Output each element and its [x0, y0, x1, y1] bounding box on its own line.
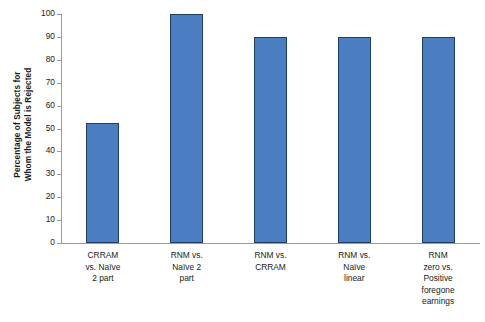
x-axis-tick-label-line: RNM vs.	[235, 250, 307, 262]
y-axis-tick-label: 100	[25, 9, 55, 17]
plot-area: 0102030405060708090100	[61, 14, 480, 243]
x-axis-tick-label: RNM vs.Naïvelinear	[318, 250, 390, 285]
x-axis-tick-label-line: 2 part	[67, 273, 139, 285]
y-axis-tick-label: 60	[25, 101, 55, 109]
y-axis-title-line-1: Percentage of Subjects for	[14, 67, 25, 181]
bar	[338, 37, 371, 243]
y-axis-tick-label: 30	[25, 169, 55, 177]
x-axis-tick-label-line: Naïve 2	[151, 262, 223, 274]
x-axis-tick-label-line: Positive	[402, 273, 474, 285]
y-axis-tick-label: 80	[25, 55, 55, 63]
x-axis-tick-label-line: RNM vs.	[318, 250, 390, 262]
y-axis-tick-label: 20	[25, 192, 55, 200]
y-axis-tick	[57, 83, 62, 84]
x-axis-tick-labels: CRRAMvs. Naïve2 partRNM vs.Naïve 2partRN…	[61, 250, 480, 320]
x-axis-tick-label-line: part	[151, 273, 223, 285]
x-axis-tick-label-line: RNM vs.	[151, 250, 223, 262]
x-axis-tick-label-line: CRRAM	[67, 250, 139, 262]
bar-chart-figure: Percentage of Subjects for Whom the Mode…	[0, 0, 485, 322]
y-axis-tick-label: 90	[25, 32, 55, 40]
y-axis-tick	[57, 37, 62, 38]
bar	[170, 14, 203, 243]
y-axis-tick	[57, 60, 62, 61]
x-axis-tick-label-line: linear	[318, 273, 390, 285]
y-axis-tick	[57, 106, 62, 107]
x-axis-tick-label: CRRAMvs. Naïve2 part	[67, 250, 139, 285]
y-axis-tick	[57, 14, 62, 15]
y-axis-tick	[57, 197, 62, 198]
x-axis-tick-label-line: Naïve	[318, 262, 390, 274]
y-axis-tick	[57, 243, 62, 244]
bar	[86, 123, 119, 243]
y-axis-tick-labels: 0102030405060708090100	[25, 14, 55, 243]
y-axis-tick-label: 50	[25, 124, 55, 132]
x-axis-tick-label-line: vs. Naïve	[67, 262, 139, 274]
x-axis-tick-label-line: RNM	[402, 250, 474, 262]
x-axis-tick-label-line: zero vs.	[402, 262, 474, 274]
bar	[422, 37, 455, 243]
y-axis-tick-label: 0	[25, 238, 55, 246]
x-axis-tick-label-line: CRRAM	[235, 262, 307, 274]
y-axis-tick	[57, 151, 62, 152]
x-axis-line	[61, 243, 480, 244]
y-axis-tick	[57, 129, 62, 130]
y-axis-tick-label: 40	[25, 146, 55, 154]
x-axis-tick-label-line: earnings	[402, 296, 474, 308]
y-axis-tick	[57, 220, 62, 221]
x-axis-tick-label: RNMzero vs.Positiveforegoneearnings	[402, 250, 474, 308]
y-axis-tick	[57, 174, 62, 175]
x-axis-tick-label: RNM vs.Naïve 2part	[151, 250, 223, 285]
y-axis-tick-label: 10	[25, 215, 55, 223]
y-axis-tick-label: 70	[25, 78, 55, 86]
bar	[254, 37, 287, 243]
x-axis-tick-label: RNM vs.CRRAM	[235, 250, 307, 273]
x-axis-tick-label-line: foregone	[402, 285, 474, 297]
